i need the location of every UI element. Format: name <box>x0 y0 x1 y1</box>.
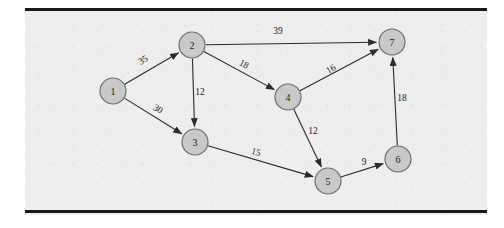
edge-weight-1-3: 30 <box>151 102 165 116</box>
graph-diagram: 1234567 3530121839151216918 <box>0 0 504 228</box>
edge-4-5 <box>294 109 322 167</box>
edge-2-7 <box>205 42 376 45</box>
graph-node-1[interactable]: 1 <box>100 78 126 104</box>
edge-4-7 <box>300 49 378 90</box>
edge-weight-2-3: 12 <box>195 87 205 97</box>
edge-labels-group: 3530121839151216918 <box>136 26 407 167</box>
node-label-7: 7 <box>390 37 395 48</box>
edge-weight-2-4: 18 <box>237 57 250 70</box>
node-label-6: 6 <box>396 154 401 165</box>
node-label-2: 2 <box>190 40 195 51</box>
node-label-4: 4 <box>286 92 291 103</box>
edge-weight-4-7: 16 <box>324 62 338 76</box>
edge-2-3 <box>192 58 194 126</box>
figure-page: 1234567 3530121839151216918 <box>0 0 504 228</box>
edge-weight-5-6: 9 <box>362 157 367 167</box>
edge-1-2 <box>125 53 179 84</box>
edge-weight-2-7: 39 <box>273 26 283 36</box>
edge-2-4 <box>204 51 275 89</box>
edge-weight-3-5: 15 <box>250 146 262 158</box>
graph-node-6[interactable]: 6 <box>385 146 411 172</box>
node-label-3: 3 <box>193 137 198 148</box>
graph-node-5[interactable]: 5 <box>315 168 341 194</box>
edge-weight-6-7: 18 <box>397 93 407 103</box>
edge-1-3 <box>124 98 181 134</box>
edge-weight-4-5: 12 <box>308 126 318 136</box>
graph-node-3[interactable]: 3 <box>182 129 208 155</box>
edges-group <box>124 42 397 177</box>
graph-node-7[interactable]: 7 <box>379 29 405 55</box>
edge-weight-1-2: 35 <box>136 53 149 67</box>
graph-node-2[interactable]: 2 <box>179 32 205 58</box>
graph-node-4[interactable]: 4 <box>275 84 301 110</box>
node-label-5: 5 <box>326 176 331 187</box>
node-label-1: 1 <box>111 86 116 97</box>
